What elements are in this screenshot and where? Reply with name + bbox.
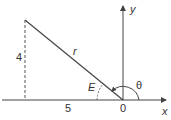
label-y-axis: y xyxy=(130,4,136,15)
theta-arc xyxy=(112,86,139,100)
label-x-axis: x xyxy=(162,106,168,117)
label-opposite: 4 xyxy=(16,52,22,63)
label-origin: 0 xyxy=(120,103,126,114)
label-hypotenuse: r xyxy=(73,46,77,57)
diagram-graphics xyxy=(0,0,171,120)
label-theta: θ xyxy=(136,80,142,91)
label-adjacent: 5 xyxy=(65,103,71,114)
coordinate-diagram: 4 5 r E 0 x y θ xyxy=(0,0,171,120)
ref-angle-arc xyxy=(97,84,103,100)
terminal-side-r xyxy=(25,20,123,100)
label-ref-angle: E xyxy=(88,82,95,93)
